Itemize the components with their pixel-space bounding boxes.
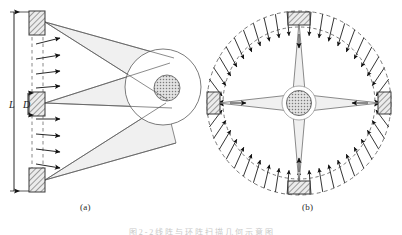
panel-label-b: (b) — [302, 202, 313, 212]
emission-arrow — [36, 164, 60, 168]
dimension-label-L: L — [9, 99, 15, 110]
ring-arrow — [264, 165, 269, 188]
emission-arrow — [36, 71, 60, 74]
ring-arrow — [329, 18, 334, 41]
ring-arrow — [329, 165, 334, 188]
ring-arrow — [354, 147, 364, 168]
ring-arrow — [338, 160, 345, 183]
transducer-block — [378, 92, 391, 114]
figure-root: L D (a) (b) 图 2 - 2 线 阵 与 环 阵 扫 描 几 何 示 … — [0, 0, 402, 235]
target-core-a — [154, 75, 180, 101]
transducer-block — [29, 11, 45, 35]
transducer-block — [29, 168, 45, 192]
ring-arrow — [226, 139, 237, 159]
ring-arrow — [219, 57, 230, 76]
transducer-block — [288, 12, 310, 25]
ring-arrow — [372, 121, 384, 139]
ring-arrow — [214, 68, 226, 86]
linear-array-panel — [10, 11, 201, 192]
ring-arrow — [367, 57, 378, 76]
ring-arrow — [319, 14, 323, 38]
ring-arrow — [214, 121, 226, 139]
ring-arrow — [275, 14, 279, 38]
target-circle-b — [282, 86, 316, 120]
ring-arrow — [346, 30, 354, 52]
target-circle-a — [125, 49, 201, 125]
transducer-block — [207, 92, 220, 114]
ring-arrow — [243, 154, 251, 176]
ring-arrow — [338, 23, 345, 46]
panel-label-a: (a) — [80, 202, 91, 212]
figure-canvas — [0, 0, 402, 235]
ring-arrow — [354, 38, 364, 59]
ring-arrow — [319, 168, 323, 192]
ring-arrow — [253, 23, 260, 46]
target-core-b — [287, 91, 312, 116]
ring-arrow — [275, 168, 279, 192]
ring-arrow — [346, 154, 354, 176]
emission-arrow — [36, 134, 60, 136]
ring-arrow — [361, 139, 372, 159]
ring-arrow — [372, 68, 384, 86]
emission-arrow — [36, 149, 60, 152]
ring-arrow — [226, 47, 237, 67]
ring-arrow — [367, 130, 378, 149]
ring-arrow — [253, 160, 260, 183]
ring-arrow — [243, 30, 251, 52]
emission-arrow — [36, 55, 60, 59]
dimension-label-D: D — [23, 99, 30, 110]
emission-arrow — [36, 86, 60, 88]
ring-arrow — [264, 18, 269, 41]
transducer-block — [29, 92, 45, 116]
ring-arrow — [219, 130, 230, 149]
ring-arrow — [234, 38, 244, 59]
transducer-block — [288, 181, 310, 194]
figure-caption: 图 2 - 2 线 阵 与 环 阵 扫 描 几 何 示 意 图 — [0, 226, 402, 235]
emission-arrow — [36, 38, 60, 44]
ring-array-panel — [207, 11, 391, 195]
ring-arrow — [361, 47, 372, 67]
